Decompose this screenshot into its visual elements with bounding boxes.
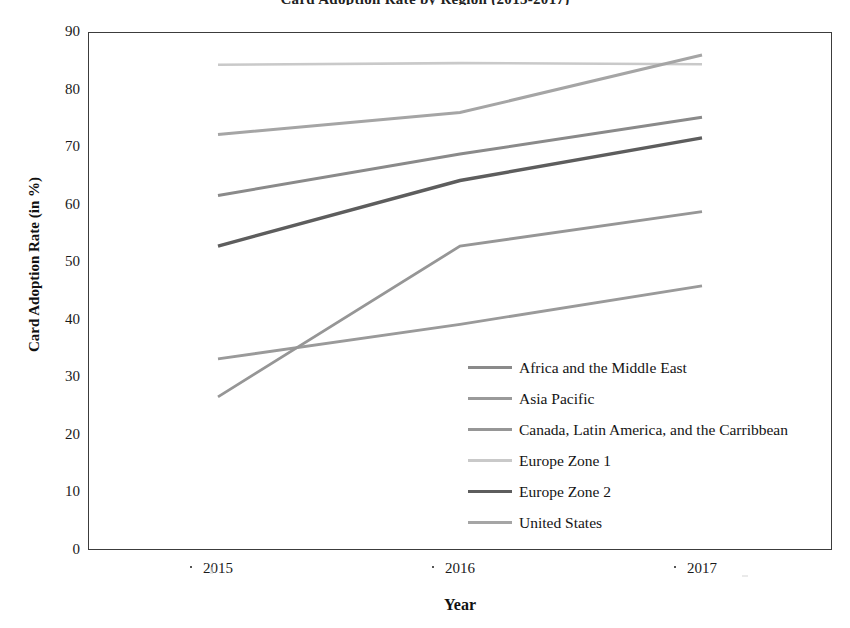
- legend-item[interactable]: Asia Pacific: [468, 383, 828, 414]
- x-tick-label: 2017: [657, 560, 747, 577]
- legend-label: Europe Zone 2: [519, 484, 611, 500]
- chart-title: Card Adoption Rate by Region (2015-2017): [0, 0, 850, 5]
- chart-figure: Card Adoption Rate by Region (2015-2017)…: [0, 0, 850, 628]
- legend-line-swatch: [468, 366, 512, 369]
- x-tick-label: 2015: [173, 560, 263, 577]
- y-tick-label: 80: [10, 82, 80, 97]
- y-tick-label: 50: [10, 254, 80, 269]
- x-tick-mark: [190, 566, 192, 568]
- legend-label: United States: [519, 515, 602, 531]
- legend-label: Asia Pacific: [519, 391, 594, 407]
- y-tick-label: 0: [10, 542, 80, 557]
- legend-item[interactable]: Africa and the Middle East: [468, 352, 828, 383]
- chart-legend: Africa and the Middle EastAsia PacificCa…: [468, 352, 828, 538]
- x-axis-title: Year: [88, 596, 832, 614]
- y-tick-label: 10: [10, 484, 80, 499]
- y-tick-label: 20: [10, 427, 80, 442]
- legend-line-swatch: [468, 490, 512, 493]
- x-tick-mark: [432, 566, 434, 568]
- legend-line-swatch: [468, 459, 512, 462]
- legend-line-swatch: [468, 397, 512, 400]
- legend-item[interactable]: Europe Zone 1: [468, 445, 828, 476]
- legend-item[interactable]: Canada, Latin America, and the Carribbea…: [468, 414, 828, 445]
- y-tick-label: 30: [10, 369, 80, 384]
- legend-item[interactable]: Europe Zone 2: [468, 476, 828, 507]
- scan-artifact: [210, 567, 213, 574]
- legend-line-swatch: [468, 521, 512, 524]
- legend-item[interactable]: United States: [468, 507, 828, 538]
- legend-label: Canada, Latin America, and the Carribbea…: [519, 422, 788, 438]
- x-tick-label: 2016: [415, 560, 505, 577]
- legend-label: Europe Zone 1: [519, 453, 611, 469]
- y-axis-tick-labels: 9080706050403020100: [0, 0, 80, 628]
- y-tick-label: 70: [10, 139, 80, 154]
- legend-label: Africa and the Middle East: [519, 360, 687, 376]
- x-tick-mark: [674, 566, 676, 568]
- y-tick-label: 40: [10, 312, 80, 327]
- y-tick-label: 60: [10, 197, 80, 212]
- scan-artifact: [742, 575, 748, 577]
- y-tick-label: 90: [10, 24, 80, 39]
- legend-line-swatch: [468, 428, 512, 431]
